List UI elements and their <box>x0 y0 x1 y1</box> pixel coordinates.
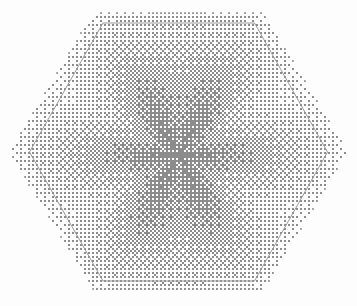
hexagon-vector-layer <box>0 0 357 306</box>
inner-hexagon <box>30 23 328 281</box>
outer-hexagon <box>9 13 349 291</box>
figure-canvas: Hexagonal Radial Dither Pattern <box>0 0 357 306</box>
